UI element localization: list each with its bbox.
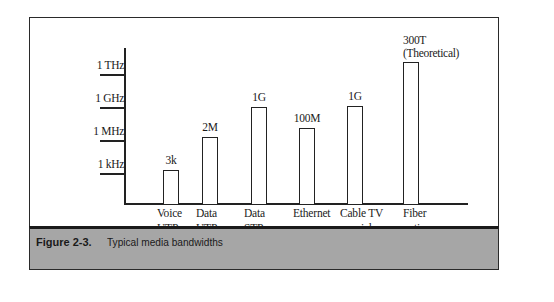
bar-ethernet xyxy=(299,128,315,204)
y-tick-mhz xyxy=(100,140,125,142)
y-tick-label-khz: 1 kHz xyxy=(60,158,124,170)
bar-value-line1: 300T xyxy=(403,34,483,47)
bar-voice-utp xyxy=(163,170,179,204)
category-line1: Data xyxy=(244,206,265,221)
category-label-ethernet: Ethernet xyxy=(293,206,330,221)
figure-caption: Typical media bandwidths xyxy=(107,236,223,248)
category-line1: Ethernet xyxy=(293,206,330,221)
bar-fiber-optic xyxy=(403,62,419,204)
figure-caption-bar: Figure 2-3. Typical media bandwidths xyxy=(29,226,499,270)
y-axis-line xyxy=(124,48,126,204)
category-line1: Voice xyxy=(157,206,182,221)
bar-value-line2: (Theoretical) xyxy=(403,47,483,60)
bar-value-voice-utp: 3k xyxy=(131,154,211,167)
y-tick-khz xyxy=(100,173,125,175)
bar-data-utp xyxy=(202,137,218,204)
bar-value-fiber-optic: 300T (Theoretical) xyxy=(403,34,483,60)
y-tick-label-ghz: 1 GHz xyxy=(60,92,124,104)
y-tick-label-mhz: 1 MHz xyxy=(60,125,124,137)
bar-value-data-utp: 2M xyxy=(170,121,250,134)
bar-value-ethernet: 100M xyxy=(267,112,347,125)
bar-data-stp xyxy=(251,107,267,204)
category-line1: Fiber xyxy=(403,206,426,221)
bar-value-cable-tv-coaxial: 1G xyxy=(315,90,395,103)
bar-cable-tv-coaxial xyxy=(347,106,363,204)
y-tick-ghz xyxy=(100,107,125,109)
y-tick-thz xyxy=(100,74,125,76)
bar-value-data-stp: 1G xyxy=(219,91,299,104)
category-line1: Data xyxy=(196,206,217,221)
category-line1: Cable TV xyxy=(340,206,383,221)
y-tick-label-thz: 1 THz xyxy=(60,59,124,71)
figure-number: Figure 2-3. xyxy=(36,236,92,248)
